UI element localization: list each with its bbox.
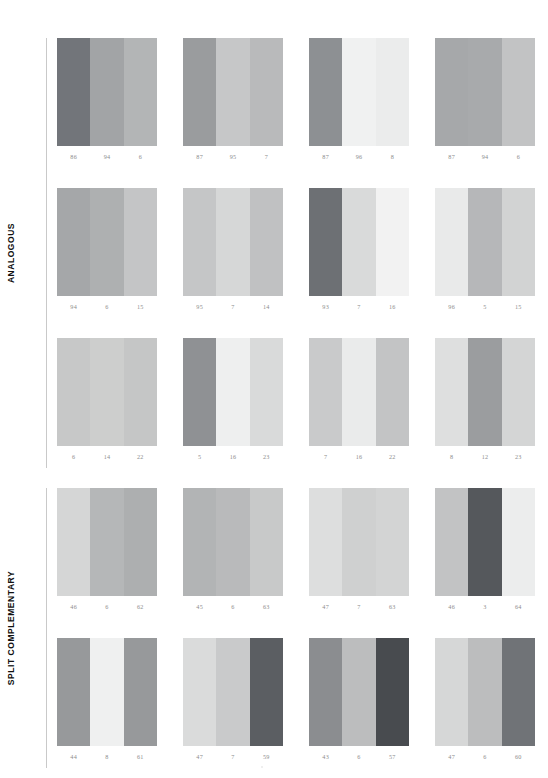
palette-group[interactable]: 87968 (309, 38, 409, 161)
color-band[interactable] (250, 488, 283, 596)
color-band[interactable] (90, 488, 123, 596)
color-band[interactable] (216, 488, 249, 596)
palette-group[interactable]: 47660 (435, 638, 535, 761)
color-swatch[interactable] (309, 188, 409, 296)
color-band[interactable] (90, 638, 123, 746)
palette-group[interactable]: 81223 (435, 338, 535, 461)
color-swatch[interactable] (435, 488, 535, 596)
color-swatch[interactable] (57, 188, 157, 296)
color-band[interactable] (468, 188, 501, 296)
color-band[interactable] (124, 338, 157, 446)
palette-group[interactable]: 87946 (435, 38, 535, 161)
color-band[interactable] (468, 38, 501, 146)
color-band[interactable] (468, 488, 501, 596)
color-band[interactable] (376, 38, 409, 146)
color-band[interactable] (57, 638, 90, 746)
color-swatch[interactable] (57, 38, 157, 146)
color-swatch[interactable] (183, 38, 283, 146)
color-band[interactable] (250, 638, 283, 746)
color-band[interactable] (57, 338, 90, 446)
color-band[interactable] (124, 488, 157, 596)
color-band[interactable] (124, 188, 157, 296)
color-swatch[interactable] (435, 38, 535, 146)
color-band[interactable] (250, 338, 283, 446)
color-band[interactable] (376, 488, 409, 596)
color-swatch[interactable] (183, 488, 283, 596)
color-band[interactable] (183, 188, 216, 296)
color-band[interactable] (90, 338, 123, 446)
color-band[interactable] (376, 638, 409, 746)
color-swatch[interactable] (309, 638, 409, 746)
color-band[interactable] (250, 38, 283, 146)
color-band[interactable] (502, 188, 535, 296)
color-band[interactable] (342, 638, 375, 746)
color-band[interactable] (342, 488, 375, 596)
color-band[interactable] (183, 488, 216, 596)
color-band[interactable] (309, 338, 342, 446)
palette-group[interactable]: 61422 (57, 338, 157, 461)
color-swatch[interactable] (183, 638, 283, 746)
color-band[interactable] (57, 38, 90, 146)
palette-group[interactable]: 87957 (183, 38, 283, 161)
color-band[interactable] (342, 38, 375, 146)
color-band[interactable] (216, 638, 249, 746)
color-band[interactable] (183, 638, 216, 746)
palette-group[interactable]: 43657 (309, 638, 409, 761)
color-swatch[interactable] (183, 338, 283, 446)
color-band[interactable] (435, 188, 468, 296)
palette-group[interactable]: 51623 (183, 338, 283, 461)
color-band[interactable] (216, 188, 249, 296)
color-band[interactable] (376, 338, 409, 446)
color-band[interactable] (502, 38, 535, 146)
color-band[interactable] (342, 188, 375, 296)
color-band[interactable] (309, 38, 342, 146)
color-band[interactable] (468, 638, 501, 746)
palette-group[interactable]: 96515 (435, 188, 535, 311)
color-band[interactable] (376, 188, 409, 296)
palette-group[interactable]: 47763 (309, 488, 409, 611)
color-swatch[interactable] (309, 38, 409, 146)
color-band[interactable] (502, 338, 535, 446)
color-band[interactable] (342, 338, 375, 446)
palette-group[interactable]: 46662 (57, 488, 157, 611)
color-swatch[interactable] (57, 338, 157, 446)
color-band[interactable] (216, 338, 249, 446)
color-band[interactable] (435, 488, 468, 596)
color-band[interactable] (124, 38, 157, 146)
color-band[interactable] (183, 338, 216, 446)
color-band[interactable] (435, 338, 468, 446)
palette-group[interactable]: 46364 (435, 488, 535, 611)
color-band[interactable] (57, 488, 90, 596)
color-band[interactable] (57, 188, 90, 296)
color-band[interactable] (309, 188, 342, 296)
color-band[interactable] (468, 338, 501, 446)
color-band[interactable] (124, 638, 157, 746)
palette-group[interactable]: 47759 (183, 638, 283, 761)
palette-group[interactable]: 93716 (309, 188, 409, 311)
color-band[interactable] (435, 638, 468, 746)
color-band[interactable] (309, 638, 342, 746)
color-band[interactable] (502, 638, 535, 746)
color-swatch[interactable] (435, 188, 535, 296)
palette-group[interactable]: 95714 (183, 188, 283, 311)
color-band[interactable] (216, 38, 249, 146)
color-swatch[interactable] (57, 638, 157, 746)
palette-group[interactable]: 86946 (57, 38, 157, 161)
color-swatch[interactable] (309, 488, 409, 596)
color-swatch[interactable] (435, 338, 535, 446)
color-band[interactable] (90, 188, 123, 296)
palette-group[interactable]: 45663 (183, 488, 283, 611)
color-swatch[interactable] (309, 338, 409, 446)
color-band[interactable] (435, 38, 468, 146)
color-swatch[interactable] (183, 188, 283, 296)
palette-group[interactable]: 44861 (57, 638, 157, 761)
color-band[interactable] (502, 488, 535, 596)
color-band[interactable] (250, 188, 283, 296)
color-band[interactable] (309, 488, 342, 596)
palette-group[interactable]: 71622 (309, 338, 409, 461)
color-band[interactable] (90, 38, 123, 146)
color-swatch[interactable] (57, 488, 157, 596)
color-band[interactable] (183, 38, 216, 146)
color-swatch[interactable] (435, 638, 535, 746)
palette-group[interactable]: 94615 (57, 188, 157, 311)
